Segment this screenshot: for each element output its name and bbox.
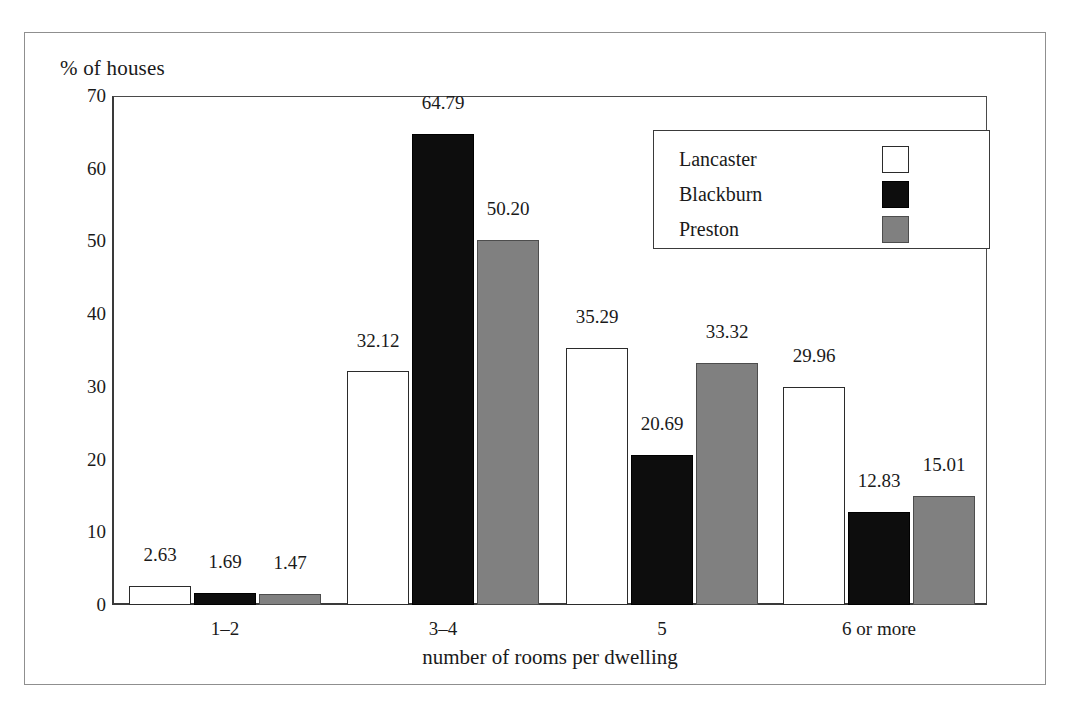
x-category-label: 5 bbox=[657, 618, 667, 640]
legend-item[interactable]: Preston bbox=[654, 210, 989, 249]
x-category-label: 1–2 bbox=[211, 618, 240, 640]
x-category-label: 6 or more bbox=[842, 618, 916, 640]
legend: LancasterBlackburnPreston bbox=[653, 130, 990, 249]
x-axis-category-labels: 1–23–456 or more bbox=[0, 0, 1070, 714]
x-axis-title: number of rooms per dwelling bbox=[422, 645, 677, 670]
legend-item[interactable]: Blackburn bbox=[654, 175, 989, 214]
legend-item-label: Preston bbox=[679, 218, 739, 241]
legend-item[interactable]: Lancaster bbox=[654, 140, 989, 179]
legend-item-label: Lancaster bbox=[679, 148, 757, 171]
legend-swatch-icon bbox=[882, 181, 909, 208]
legend-swatch-icon bbox=[882, 146, 909, 173]
legend-swatch-icon bbox=[882, 216, 909, 243]
x-category-label: 3–4 bbox=[429, 618, 458, 640]
legend-item-label: Blackburn bbox=[679, 183, 762, 206]
bar-chart-figure: % of houses 010203040506070 2.631.691.47… bbox=[0, 0, 1070, 714]
